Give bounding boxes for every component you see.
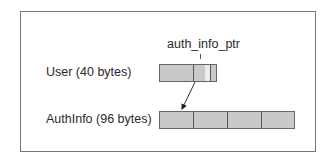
pointer-arrow-icon: [0, 0, 334, 163]
